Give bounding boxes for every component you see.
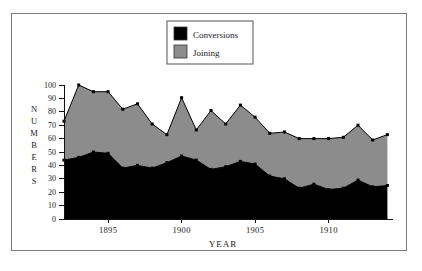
y-axis-title-char: M bbox=[30, 128, 38, 138]
x-tick-label: 1910 bbox=[319, 225, 337, 235]
y-tick-label: 100 bbox=[44, 81, 56, 90]
legend-swatch-joining bbox=[174, 45, 187, 58]
y-axis-title-char: E bbox=[31, 152, 36, 162]
x-tick-label: 1895 bbox=[99, 225, 117, 235]
x-tick-label: 1905 bbox=[246, 225, 264, 235]
y-tick-label: 80 bbox=[48, 107, 56, 116]
y-tick-label: 40 bbox=[48, 161, 56, 170]
y-axis-ticks: 0 10 20 30 40 50 60 70 80 90 100 bbox=[44, 81, 64, 224]
y-axis-title-char: B bbox=[31, 140, 37, 150]
x-tick-label: 1900 bbox=[172, 225, 190, 235]
x-axis-ticks: 1895 1900 1905 1910 bbox=[99, 219, 338, 235]
y-tick-label: 10 bbox=[48, 201, 56, 210]
y-tick-label: 90 bbox=[48, 94, 56, 103]
chart-canvas: Conversions Joining bbox=[11, 13, 407, 251]
y-axis-title-char: N bbox=[31, 104, 37, 114]
y-tick-label: 30 bbox=[48, 174, 56, 183]
y-axis-title: N U M B E R S bbox=[30, 104, 38, 186]
y-axis-title-char: S bbox=[32, 176, 37, 186]
figure-root: Conversions Joining bbox=[0, 0, 422, 271]
chart-legend: Conversions Joining bbox=[167, 21, 253, 64]
y-tick-label: 70 bbox=[48, 121, 56, 130]
y-tick-label: 20 bbox=[48, 188, 56, 197]
y-axis-title-char: U bbox=[31, 116, 37, 126]
y-tick-label: 60 bbox=[48, 134, 56, 143]
legend-swatch-conversions bbox=[174, 27, 187, 40]
y-axis-title-char: R bbox=[31, 164, 37, 174]
legend-label-joining: Joining bbox=[193, 48, 220, 58]
plot-area bbox=[63, 84, 389, 220]
y-tick-label: 50 bbox=[48, 148, 56, 157]
x-axis-title: YEAR bbox=[209, 239, 238, 249]
y-tick-label: 0 bbox=[52, 215, 56, 224]
legend-label-conversions: Conversions bbox=[193, 30, 238, 40]
